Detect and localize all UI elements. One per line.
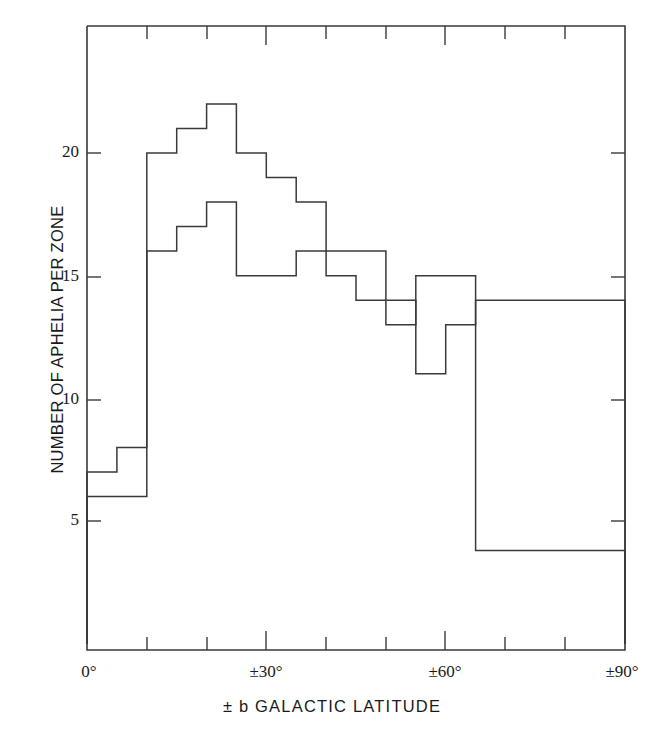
x-axis-ticks-bottom [147,631,565,650]
figure-container: 20 15 10 5 0° [0,0,664,741]
x-axis-ticks-top [147,26,565,45]
y-axis-ticks [87,153,101,521]
histogram-upper-series [87,104,625,644]
chart-plot-area: 20 15 10 5 0° [0,0,664,741]
y-axis-label: NUMBER OF APHELIA PER ZONE [48,175,67,505]
histogram-series-group [87,104,625,644]
y-axis-ticks-right [611,153,625,521]
axis-frame [87,26,625,650]
x-tick-labels: 0° ±30° ±60° ±90° [81,662,638,681]
x-tick-label: ±90° [605,662,638,681]
histogram-lower-series [87,202,625,644]
x-axis-label: ± b GALACTIC LATITUDE [0,697,664,716]
x-tick-label: ±60° [428,662,461,681]
x-tick-label: ±30° [249,662,282,681]
y-tick-label: 20 [62,142,79,161]
x-tick-label: 0° [81,662,96,681]
y-tick-label: 5 [71,510,80,529]
